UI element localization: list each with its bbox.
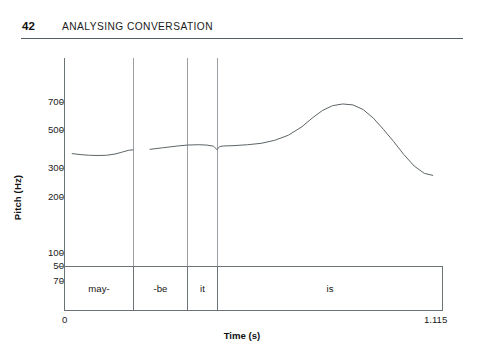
segment-cell-is[interactable]: is [218, 267, 442, 310]
pitch-contour-plot [0, 44, 484, 361]
segment-cell-may[interactable]: may- [65, 267, 134, 310]
segment-cell-it[interactable]: it [188, 267, 218, 310]
segment-label-may: may- [88, 284, 109, 294]
page-header: 42 ANALYSING CONVERSATION [0, 0, 484, 44]
x-axis-tick-label-end: 1.115 [424, 314, 447, 325]
segment-label-be: -be [154, 284, 168, 294]
running-head: ANALYSING CONVERSATION [62, 21, 213, 32]
header-divider [21, 38, 463, 39]
segment-label-it: it [200, 284, 205, 294]
annotation-tier: may- -be it is [64, 266, 443, 311]
pitch-contour-figure: 700 500 300 200 100 70 50 Pitch (Hz) may… [0, 44, 484, 361]
segment-cell-be[interactable]: -be [134, 267, 188, 310]
pitch-contour-line-2 [150, 104, 433, 175]
x-axis-tick-label-start: 0 [62, 314, 67, 325]
segment-label-is: is [327, 284, 334, 294]
page-number: 42 [22, 20, 35, 32]
pitch-contour-line-1 [72, 150, 133, 156]
x-axis-title: Time (s) [0, 330, 484, 341]
